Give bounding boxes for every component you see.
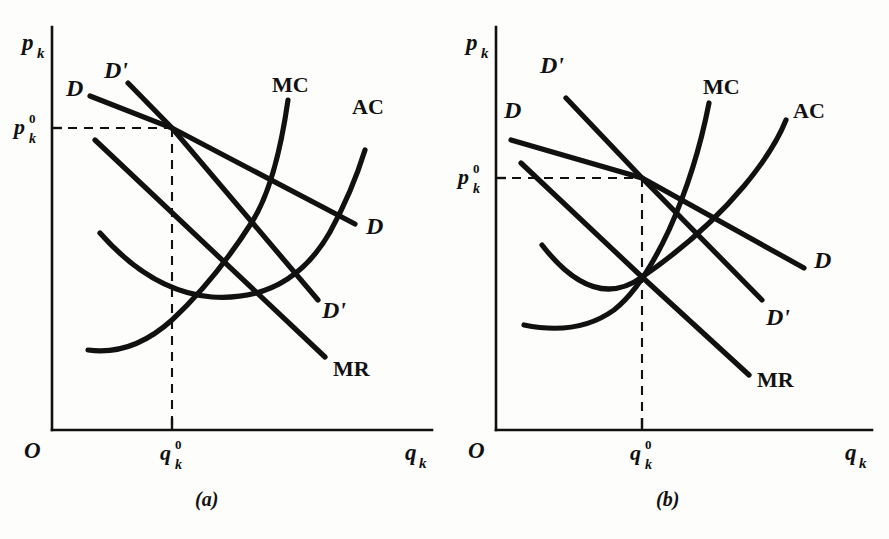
curve-label-AC-b: AC — [793, 98, 825, 123]
curve-MR-b — [521, 163, 749, 375]
caption-b: (b) — [656, 488, 679, 511]
svg-text:p: p — [464, 30, 478, 55]
curve-label-D-right-a: D — [365, 213, 383, 239]
curve-label-Dprime-right-b: D' — [765, 304, 790, 330]
svg-text:0: 0 — [175, 437, 182, 452]
curve-D-a — [90, 96, 355, 224]
svg-text:k: k — [859, 455, 867, 471]
curve-label-D-left-b: D — [503, 97, 521, 123]
y-axis-label-b: p k — [464, 30, 489, 61]
origin-label-b: O — [468, 438, 485, 463]
svg-text:0: 0 — [645, 437, 652, 452]
svg-text:p: p — [20, 30, 34, 55]
x-axis-label-a: q k — [405, 440, 427, 471]
curve-AC-b — [542, 120, 786, 289]
curve-label-D-right-b: D — [813, 247, 831, 273]
panel-a: p k q k O p 0 k q 0 k D D' MC — [0, 0, 445, 539]
y-axis-label-a: p k — [20, 30, 45, 61]
curve-label-Dprime-left-a: D' — [103, 57, 128, 83]
price-tick-label-b: p 0 k — [456, 161, 480, 196]
panel-b: p k q k O p 0 k q 0 k D D' MC — [444, 0, 889, 539]
curve-label-Dprime-right-a: D' — [321, 297, 346, 323]
curve-AC-a — [100, 150, 365, 297]
svg-text:q: q — [160, 440, 171, 465]
svg-text:k: k — [29, 131, 36, 146]
figure-monopolistic-competition: p k q k O p 0 k q 0 k D D' MC — [0, 0, 889, 539]
svg-text:k: k — [419, 455, 427, 471]
curve-label-MR-a: MR — [333, 356, 371, 381]
svg-text:p: p — [12, 114, 25, 139]
svg-text:p: p — [456, 164, 469, 189]
quantity-tick-label-a: q 0 k — [160, 437, 182, 472]
origin-label-a: O — [24, 438, 41, 463]
price-tick-label-a: p 0 k — [12, 111, 36, 146]
caption-a: (a) — [195, 488, 218, 511]
curve-label-MC-b: MC — [703, 74, 740, 99]
curve-label-Dprime-left-b: D' — [539, 52, 564, 78]
curve-label-MC-a: MC — [272, 72, 309, 97]
svg-text:0: 0 — [29, 111, 36, 126]
svg-text:q: q — [845, 440, 857, 465]
svg-text:k: k — [481, 45, 489, 61]
svg-text:k: k — [473, 181, 480, 196]
curve-label-AC-a: AC — [352, 94, 384, 119]
svg-text:q: q — [630, 440, 641, 465]
svg-text:k: k — [37, 45, 45, 61]
svg-text:k: k — [645, 457, 652, 472]
svg-text:k: k — [175, 457, 182, 472]
x-axis-label-b: q k — [845, 440, 867, 471]
quantity-tick-label-b: q 0 k — [630, 437, 652, 472]
svg-text:q: q — [405, 440, 417, 465]
curve-label-D-left-a: D — [65, 75, 83, 101]
curve-label-MR-b: MR — [757, 367, 795, 392]
svg-text:0: 0 — [473, 161, 480, 176]
